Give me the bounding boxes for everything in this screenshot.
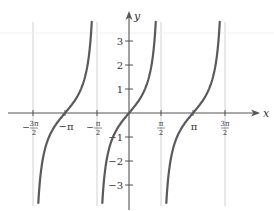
tan-branch-curve (38, 22, 91, 203)
x-tick-sign: − (86, 122, 94, 132)
x-tick-label-denominator: 2 (96, 129, 100, 137)
x-tick-label-denominator: 2 (32, 129, 36, 137)
x-tick-label-numerator: π (159, 120, 164, 128)
y-tick-label: 2 (117, 60, 123, 71)
x-tick-label-numerator: 3π (29, 120, 38, 128)
x-tick-label-denominator: 2 (223, 129, 227, 137)
y-tick-label: −3 (108, 180, 123, 191)
y-tick-label: 3 (117, 36, 123, 47)
axes: x y (8, 10, 270, 210)
y-axis-label: y (133, 10, 141, 23)
x-tick-label-numerator: 3π (220, 120, 229, 128)
tan-branch-curve (166, 22, 219, 203)
y-tick-label: −2 (108, 156, 123, 167)
y-tick-label: 1 (117, 84, 123, 95)
x-axis-label: x (263, 107, 270, 120)
x-tick-label: −π (59, 121, 74, 132)
tangent-chart: x y −3π2−π−π2π2π3π2321−1−2−3 (0, 0, 274, 211)
x-tick-label: π (191, 121, 198, 132)
x-tick-label-numerator: π (96, 120, 101, 128)
x-tick-label-denominator: 2 (159, 129, 163, 137)
